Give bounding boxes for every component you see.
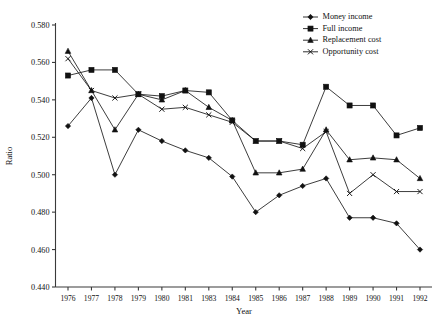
x-tick-label: 1992 <box>412 294 427 303</box>
data-point-square <box>89 67 94 72</box>
legend-item[interactable]: Money income <box>303 12 373 21</box>
line-chart: 0.5800.5600.5400.5200.5000.4800.4600.440… <box>0 0 446 330</box>
data-point-square <box>65 73 70 78</box>
y-axis-title: Ratio <box>4 147 14 166</box>
y-tick-label: 0.560 <box>31 58 49 67</box>
data-point-diamond <box>370 215 375 220</box>
data-point-diamond <box>183 148 188 153</box>
chart-canvas: 0.5800.5600.5400.5200.5000.4800.4600.440… <box>0 0 446 330</box>
x-axis-title: Year <box>236 306 252 316</box>
data-point-diamond <box>308 14 313 19</box>
data-point-diamond <box>347 215 352 220</box>
legend-item[interactable]: Full income <box>303 24 363 33</box>
x-tick-label: 1990 <box>365 294 380 303</box>
x-tick-label: 1989 <box>342 294 357 303</box>
data-point-square <box>347 103 352 108</box>
x-tick-label: 1978 <box>107 294 122 303</box>
data-point-diamond <box>277 193 282 198</box>
data-point-x <box>371 172 376 177</box>
data-point-square <box>324 84 329 89</box>
data-point-triangle <box>65 48 71 53</box>
series-line <box>68 70 420 145</box>
series-money-income <box>65 95 422 252</box>
legend-item[interactable]: Opportunity cost <box>303 47 379 56</box>
data-point-triangle <box>370 155 376 160</box>
data-point-triangle <box>300 166 306 171</box>
data-point-diamond <box>112 172 117 177</box>
data-point-diamond <box>323 176 328 181</box>
data-point-diamond <box>136 127 141 132</box>
x-tick-label: 1979 <box>131 294 146 303</box>
x-tick-label: 1985 <box>248 294 263 303</box>
data-point-square <box>417 125 422 130</box>
data-point-square <box>308 26 313 31</box>
series-line <box>68 59 420 194</box>
y-tick-label: 0.500 <box>31 171 49 180</box>
y-tick-label: 0.460 <box>31 246 49 255</box>
data-point-square <box>394 133 399 138</box>
legend-item-label: Replacement cost <box>323 35 382 44</box>
y-tick-label: 0.520 <box>31 133 49 142</box>
y-tick-label: 0.540 <box>31 96 49 105</box>
data-point-triangle <box>417 175 423 180</box>
legend-item-label: Money income <box>323 12 373 21</box>
data-point-x <box>65 56 70 61</box>
x-tick-label: 1976 <box>60 294 75 303</box>
legend-item-label: Opportunity cost <box>323 47 380 56</box>
y-tick-label: 0.480 <box>31 208 49 217</box>
series-replacement-cost <box>65 48 423 180</box>
data-point-square <box>371 103 376 108</box>
series-full-income <box>65 67 422 147</box>
x-tick-label: 1987 <box>295 294 310 303</box>
data-point-x <box>347 191 352 196</box>
x-tick-label: 1977 <box>84 294 99 303</box>
data-point-square <box>206 90 211 95</box>
x-tick-label: 1980 <box>154 294 169 303</box>
x-tick-label: 1986 <box>272 294 287 303</box>
data-point-diamond <box>300 183 305 188</box>
y-tick-label: 0.440 <box>31 283 49 292</box>
series-line <box>68 51 420 178</box>
legend: Money incomeFull incomeReplacement costO… <box>303 12 382 56</box>
data-point-x <box>206 112 211 117</box>
x-tick-label: 1984 <box>225 294 240 303</box>
y-tick-label: 0.580 <box>31 21 49 30</box>
data-point-triangle <box>206 104 212 109</box>
legend-item[interactable]: Replacement cost <box>303 35 382 44</box>
x-tick-label: 1988 <box>319 294 334 303</box>
x-tick-label: 1991 <box>389 294 404 303</box>
x-tick-label: 1981 <box>178 294 193 303</box>
data-point-square <box>112 67 117 72</box>
series-opportunity-cost <box>65 56 422 196</box>
data-point-diamond <box>159 138 164 143</box>
x-tick-label: 1983 <box>201 294 216 303</box>
legend-item-label: Full income <box>323 24 363 33</box>
